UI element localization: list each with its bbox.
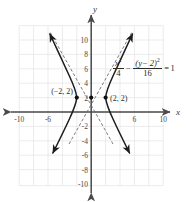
y-tick-label: 4: [84, 79, 88, 88]
y-tick-label: 6: [84, 65, 88, 74]
y-tick-label: 10: [81, 36, 89, 45]
y-axis-label: y: [92, 4, 97, 14]
equation-label: x2 4 − (y− 2)2 16 = 1: [112, 52, 194, 84]
vertex-right-dot: [104, 96, 108, 100]
y-tick-label: -8: [82, 166, 88, 175]
equation-right-hand-side: 1: [170, 64, 174, 73]
x-tick-label: -6: [45, 115, 51, 124]
hyperbola-figure: -10 -6 6 10 10 8 6 4 2 -2 -4 -6 -8 -10 x…: [0, 0, 194, 202]
equation-fraction-1: x2 4: [113, 58, 124, 78]
equation-denominator-1: 4: [114, 69, 122, 78]
right-branch-lower: [106, 98, 130, 153]
point-label-left-vertex: (−2, 2): [51, 87, 73, 96]
y-tick-label: 2: [84, 94, 88, 103]
equation-fraction-2: (y− 2)2 16: [133, 58, 161, 78]
equation-minus-operator: −: [126, 64, 131, 73]
equation-numerator-1: x2: [113, 58, 124, 68]
y-tick-label: -2: [82, 122, 88, 131]
axis-lines: [11, 15, 170, 193]
y-tick-label: -10: [78, 180, 88, 189]
x-tick-label: 6: [133, 115, 137, 124]
y-tick-label: -6: [82, 151, 88, 160]
x-tick-label: -10: [14, 115, 24, 124]
plot-canvas: -10 -6 6 10 10 8 6 4 2 -2 -4 -6 -8 -10 x…: [0, 0, 194, 202]
left-branch-lower: [53, 98, 77, 153]
equation-x-exponent: 2: [119, 57, 122, 63]
center-dot: [89, 96, 93, 100]
vertex-left-dot: [75, 96, 79, 100]
x-axis-label: x: [175, 107, 180, 117]
point-label-right-vertex: (2, 2): [110, 94, 128, 103]
asymptote-positive-slope: [69, 32, 132, 144]
equation-numerator-2: (y− 2)2: [133, 58, 161, 68]
x-tick-label: 10: [159, 115, 167, 124]
equation-y-exponent: 2: [157, 57, 160, 63]
y-tick-label: -4: [82, 137, 88, 146]
equation-numerator-2-rest: − 2): [142, 58, 157, 68]
y-tick-label: 8: [84, 50, 88, 59]
equation-equals-sign: =: [164, 64, 169, 73]
equation-denominator-2: 16: [141, 69, 154, 78]
